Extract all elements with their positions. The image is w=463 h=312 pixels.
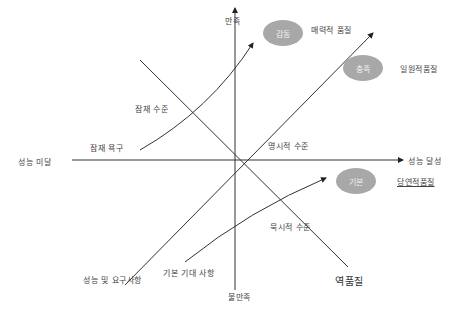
must-be-curve [185, 178, 326, 262]
ellipse-must-be: 기본 [336, 168, 376, 194]
x-axis-right-label: 성능 달성 [408, 155, 441, 166]
latent-level-label: 잠재 수준 [135, 103, 168, 114]
basic-expectations-label: 기본 기대 사항 [163, 267, 214, 278]
implicit-level-label: 묵시적 수준 [270, 221, 311, 232]
performance-requirements-label: 성능 및 요구사항 [83, 274, 142, 285]
one-dimensional-quality-label: 일원적품질 [400, 63, 438, 74]
kano-diagram-lines [0, 0, 463, 312]
x-axis-left-label: 성능 미달 [18, 156, 51, 167]
y-axis-bottom-label: 불만족 [228, 291, 251, 302]
explicit-level-label: 명시적 수준 [268, 140, 309, 151]
must-be-quality-label: 당연적품질 [397, 176, 435, 187]
ellipse-one-dimensional: 충족 [343, 55, 383, 81]
reverse-line [140, 60, 348, 267]
latent-needs-label: 잠재 욕구 [90, 142, 123, 153]
ellipse-attractive: 감동 [263, 20, 303, 46]
reverse-quality-label: 역품질 [335, 273, 364, 288]
attractive-quality-label: 매력적 품질 [311, 24, 352, 35]
y-axis-top-label: 만족 [225, 15, 240, 26]
attractive-curve [140, 43, 253, 150]
one-dimensional-line [125, 33, 373, 285]
